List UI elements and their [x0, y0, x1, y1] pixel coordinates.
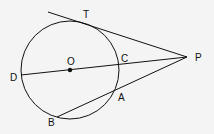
center-point-o [68, 68, 72, 72]
secant-line-pb [57, 57, 187, 117]
label-t: T [83, 9, 89, 20]
label-c: C [121, 53, 128, 64]
geometry-diagram: T P O C D A B [0, 0, 214, 134]
label-o: O [67, 56, 75, 67]
secant-line-pd [21, 57, 187, 75]
label-p: P [195, 52, 202, 63]
label-a: A [118, 92, 125, 103]
tangent-line-pt [48, 12, 187, 57]
label-b: B [48, 117, 55, 128]
label-d: D [10, 72, 17, 83]
